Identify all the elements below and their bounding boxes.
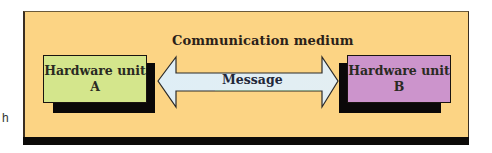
panel-shadow	[23, 137, 469, 145]
unit-a-letter: A	[90, 79, 100, 95]
clipped-text: h	[2, 111, 9, 125]
hardware-unit-b: Hardware unit B	[347, 55, 451, 103]
unit-b-title: Hardware unit	[348, 63, 450, 79]
message-label: Message	[222, 72, 283, 87]
hardware-unit-a: Hardware unit A	[43, 55, 147, 103]
communication-medium-label: Communication medium	[172, 33, 354, 48]
unit-a-title: Hardware unit	[44, 63, 146, 79]
unit-b-letter: B	[394, 79, 405, 95]
